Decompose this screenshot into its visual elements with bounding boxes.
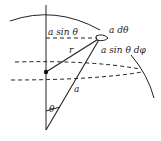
- label-r: r: [69, 45, 74, 55]
- label-theta: θ: [49, 104, 55, 114]
- ring-ellipse-top: [15, 62, 140, 69]
- r-vector: [46, 38, 100, 72]
- sphere-arc-right: [131, 55, 154, 98]
- sphere-diagram: a sin θ a dθ a sin θ dφ r a θ: [0, 0, 161, 141]
- label-ring-radius: a sin θ: [48, 27, 78, 37]
- label-arc-theta: a dθ: [109, 25, 129, 35]
- label-a: a: [74, 84, 79, 94]
- label-arc-phi: a sin θ dφ: [101, 45, 146, 55]
- diagram-canvas: a sin θ a dθ a sin θ dφ r a θ: [0, 0, 161, 141]
- field-point-dot: [44, 70, 48, 74]
- area-element: [96, 35, 108, 41]
